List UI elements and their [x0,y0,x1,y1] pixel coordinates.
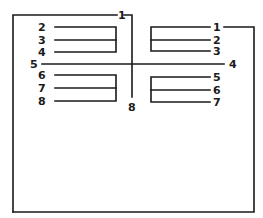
cross-label-4: 4 [229,58,237,71]
right-label-5: 5 [213,71,221,84]
right-bottom-bracket: 5 6 7 [151,71,221,109]
label-top-1: 1 [118,9,126,22]
left-label-6: 6 [38,69,46,82]
wiring-diagram: 1 8 2 3 4 6 7 8 5 4 1 2 3 5 6 7 [0,0,263,218]
left-label-4: 4 [38,46,46,59]
left-label-7: 7 [38,82,46,95]
outer-enclosure-left-top [13,15,117,212]
left-label-2: 2 [38,21,46,34]
cross-label-5: 5 [30,58,38,71]
left-bottom-bracket: 6 7 8 [38,69,116,108]
left-top-bracket: 2 3 4 [38,21,116,59]
outer-enclosure-center-lead [124,15,132,97]
left-label-8: 8 [38,95,46,108]
right-label-1: 1 [213,21,221,34]
right-top-bracket: 1 2 3 [151,21,221,58]
label-center-8: 8 [128,101,136,114]
right-label-7: 7 [213,96,221,109]
right-label-3: 3 [213,45,221,58]
cross-line: 5 4 [30,58,237,71]
